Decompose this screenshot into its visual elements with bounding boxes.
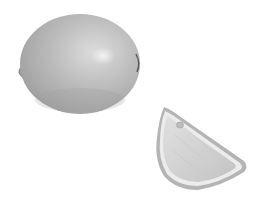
lemon-highlight [91, 47, 115, 65]
lemon-wedge [156, 107, 246, 190]
photo-scene: Grayscale photograph of a whole lemon an… [0, 0, 259, 197]
photo-canvas [0, 0, 259, 197]
wedge-seed [177, 122, 184, 128]
whole-lemon [19, 14, 140, 114]
